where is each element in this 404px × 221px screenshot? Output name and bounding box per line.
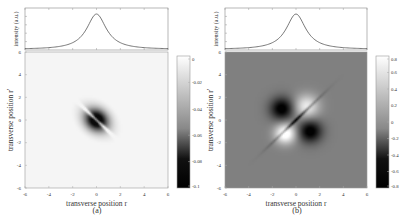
y-tick-label: 2 — [19, 95, 22, 100]
y-tick-label: -4 — [217, 163, 222, 168]
caption-a: (a) — [85, 206, 109, 215]
colorbar-tick-label: 0 — [391, 120, 394, 125]
y-tick-label: -6 — [17, 186, 22, 191]
y-tick-label: 6 — [19, 50, 22, 55]
correlation-heatmap-a — [25, 52, 168, 188]
y-tick-label: -6 — [217, 186, 222, 191]
colorbar-tick-label: -0.2 — [391, 136, 399, 141]
x-tick-label: -4 — [47, 192, 52, 197]
colorbar-tick-label: -0.8 — [391, 184, 399, 189]
profile-ylabel: intensity (a.u.) — [213, 12, 220, 47]
colorbar-tick-label: -0.1 — [192, 184, 200, 189]
x-tick-label: -2 — [270, 192, 275, 197]
y-tick-label: 4 — [19, 72, 22, 77]
map-ylabel: transverse position r' — [6, 88, 15, 151]
x-tick-label: 4 — [143, 192, 146, 197]
colorbar-tick-label: 0.8 — [391, 57, 398, 62]
colorbar-tick-label: -0.08 — [192, 159, 203, 164]
y-tick-label: 0 — [19, 118, 22, 123]
x-tick-label: 2 — [318, 192, 321, 197]
panel-a: intensity (a.u.)-6-4-202466420-2-4-6tran… — [6, 8, 203, 208]
colorbar-tick-label: 0.6 — [391, 70, 398, 75]
figure: intensity (a.u.)-6-4-202466420-2-4-6tran… — [0, 0, 404, 221]
x-tick-label: 0 — [295, 192, 298, 197]
map-ylabel: transverse position r' — [206, 88, 215, 151]
profile-ylabel: intensity (a.u.) — [13, 12, 20, 47]
y-tick-label: 2 — [219, 95, 222, 100]
x-tick-label: 6 — [366, 192, 369, 197]
y-tick-label: -4 — [17, 163, 22, 168]
x-tick-label: -2 — [71, 192, 76, 197]
x-tick-label: 6 — [167, 192, 170, 197]
colorbar-tick-label: -0.6 — [391, 169, 399, 174]
colorbar-tick-label: -0.4 — [391, 153, 399, 158]
x-tick-label: -4 — [247, 192, 252, 197]
correlation-heatmap-b — [225, 52, 367, 188]
y-tick-label: 6 — [219, 50, 222, 55]
colorbar-tick-label: -0.02 — [192, 80, 203, 85]
x-tick-label: -6 — [223, 192, 228, 197]
y-tick-label: 4 — [219, 72, 222, 77]
x-tick-label: 2 — [119, 192, 122, 197]
panel-b: intensity (a.u.)-6-4-202466420-2-4-6tran… — [206, 8, 399, 208]
colorbar-a — [177, 56, 190, 188]
colorbar-tick-label: -0.04 — [192, 107, 203, 112]
x-tick-label: 4 — [342, 192, 345, 197]
x-tick-label: 0 — [95, 192, 98, 197]
colorbar-tick-label: 0.2 — [391, 103, 398, 108]
y-tick-label: 0 — [219, 118, 222, 123]
caption-b: (b) — [285, 206, 309, 215]
y-tick-label: -2 — [217, 140, 222, 145]
colorbar-tick-label: 0.4 — [391, 87, 398, 92]
colorbar-tick-label: -0.06 — [192, 133, 203, 138]
x-tick-label: -6 — [23, 192, 28, 197]
colorbar-tick-label: 0 — [192, 57, 195, 62]
y-tick-label: -2 — [17, 140, 22, 145]
